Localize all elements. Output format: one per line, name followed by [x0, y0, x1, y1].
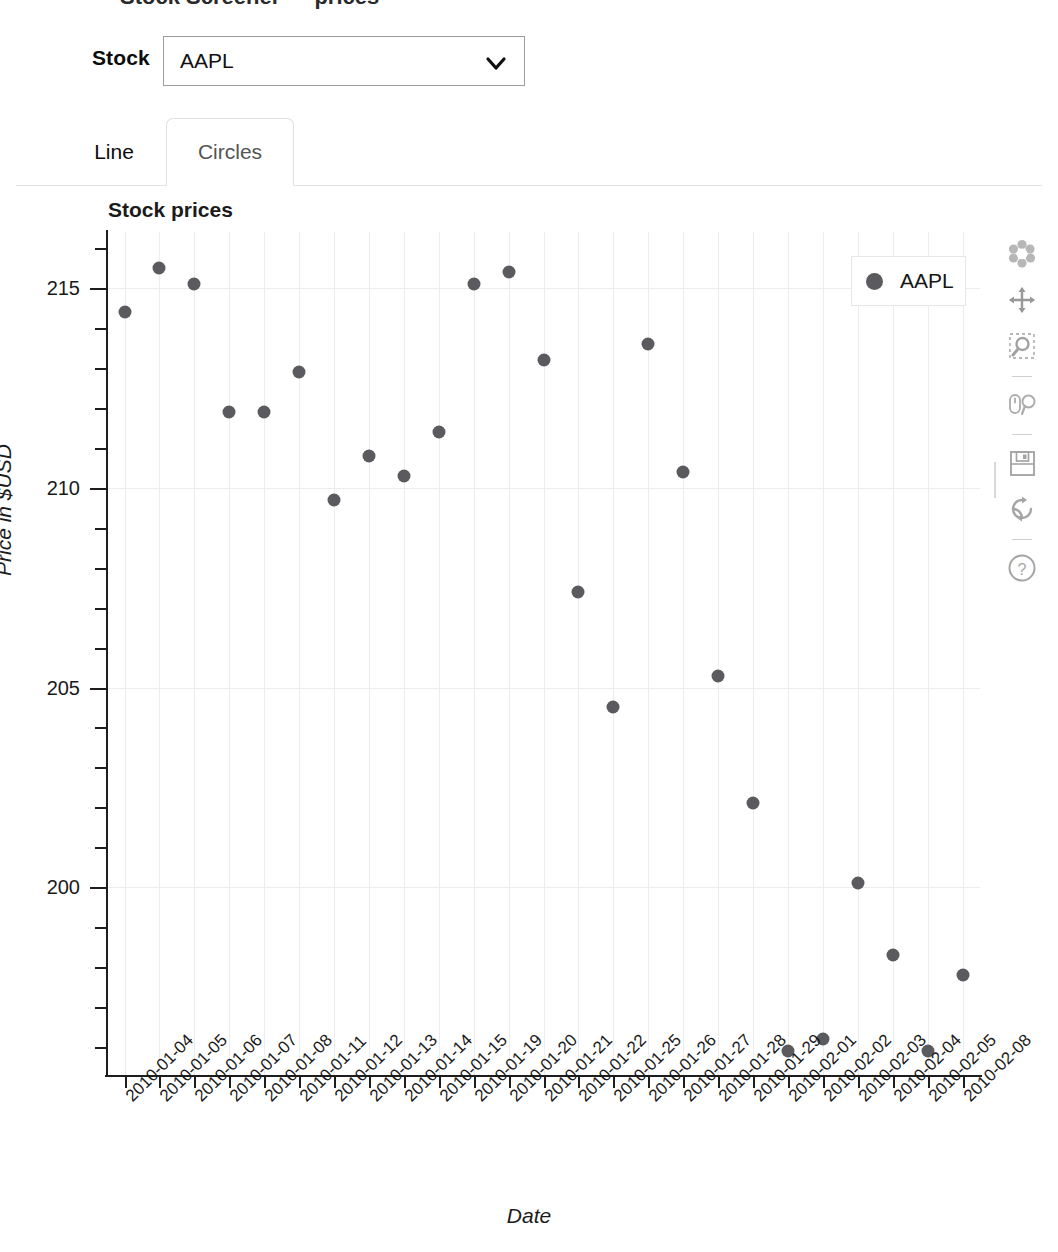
- y-tick-minor: [95, 767, 106, 769]
- grid-line-vertical: [823, 232, 824, 1075]
- grid-line-vertical: [718, 232, 719, 1075]
- data-point[interactable]: [886, 949, 899, 962]
- y-tick-minor: [95, 448, 106, 450]
- reset-tool-icon[interactable]: [1002, 489, 1042, 529]
- y-tick-minor: [95, 727, 106, 729]
- stock-select-value: AAPL: [180, 49, 234, 73]
- grid-line-vertical: [369, 232, 370, 1075]
- toolbar-separator: [1012, 434, 1032, 435]
- y-axis-line: [106, 230, 108, 1077]
- grid-line-vertical: [578, 232, 579, 1075]
- toolbar-separator: [1012, 376, 1032, 377]
- pan-tool-icon[interactable]: [1002, 280, 1042, 320]
- svg-text:?: ?: [1018, 561, 1027, 578]
- y-tick-minor: [95, 648, 106, 650]
- help-tool-icon[interactable]: ?: [1002, 548, 1042, 588]
- grid-line-vertical: [963, 232, 964, 1075]
- stock-select-label: Stock: [92, 46, 150, 70]
- data-point[interactable]: [397, 469, 410, 482]
- plot-toolbar: ?: [998, 234, 1046, 594]
- y-tick-label: 200: [20, 876, 80, 899]
- data-point[interactable]: [851, 877, 864, 890]
- data-point[interactable]: [572, 585, 585, 598]
- y-tick-minor: [95, 967, 106, 969]
- grid-line-vertical: [439, 232, 440, 1075]
- y-axis-title: Price in $USD: [0, 576, 124, 600]
- bokeh-logo-icon[interactable]: [1002, 234, 1042, 274]
- data-point[interactable]: [362, 449, 375, 462]
- y-tick-minor: [95, 927, 106, 929]
- data-point[interactable]: [328, 493, 341, 506]
- tab-line[interactable]: Line: [76, 118, 152, 186]
- data-point[interactable]: [712, 669, 725, 682]
- data-point[interactable]: [467, 277, 480, 290]
- stock-select[interactable]: AAPL: [163, 36, 525, 86]
- toolbar-divider: [994, 462, 996, 498]
- stock-select-row: Stock AAPL: [0, 30, 1058, 92]
- grid-line-vertical: [299, 232, 300, 1075]
- grid-line-vertical: [474, 232, 475, 1075]
- chevron-down-icon: [485, 52, 507, 74]
- data-point[interactable]: [607, 701, 620, 714]
- y-tick-minor: [95, 408, 106, 410]
- y-tick-minor: [95, 568, 106, 570]
- grid-line-horizontal: [107, 887, 980, 888]
- y-tick-major: [90, 488, 106, 490]
- data-point[interactable]: [747, 797, 760, 810]
- data-point[interactable]: [223, 405, 236, 418]
- clipped-page-header-text: Stock Screener — prices: [120, 0, 379, 10]
- grid-line-vertical: [264, 232, 265, 1075]
- data-point[interactable]: [432, 425, 445, 438]
- grid-line-vertical: [858, 232, 859, 1075]
- y-tick-minor: [95, 608, 106, 610]
- y-tick-minor: [95, 1047, 106, 1049]
- y-tick-minor: [95, 368, 106, 370]
- legend-entry-label: AAPL: [900, 269, 954, 293]
- grid-line-vertical: [928, 232, 929, 1075]
- chart-legend[interactable]: AAPL: [851, 256, 966, 306]
- toolbar-separator: [1012, 539, 1032, 540]
- y-tick-minor: [95, 847, 106, 849]
- grid-line-vertical: [404, 232, 405, 1075]
- y-tick-minor: [95, 1007, 106, 1009]
- grid-line-vertical: [229, 232, 230, 1075]
- data-point[interactable]: [537, 353, 550, 366]
- plot-frame[interactable]: [107, 232, 980, 1075]
- data-point[interactable]: [258, 405, 271, 418]
- data-point[interactable]: [502, 266, 515, 279]
- y-tick-major: [90, 288, 106, 290]
- wheel-zoom-tool-icon[interactable]: [1002, 385, 1042, 425]
- data-point[interactable]: [188, 277, 201, 290]
- tab-bar: Line Circles: [0, 118, 1058, 186]
- x-axis-title: Date: [0, 1204, 1058, 1228]
- y-tick-minor: [95, 248, 106, 250]
- data-point[interactable]: [118, 305, 131, 318]
- grid-line-horizontal: [107, 688, 980, 689]
- y-tick-label: 210: [20, 476, 80, 499]
- grid-line-vertical: [334, 232, 335, 1075]
- data-point[interactable]: [642, 337, 655, 350]
- y-tick-minor: [95, 807, 106, 809]
- grid-line-vertical: [194, 232, 195, 1075]
- data-point[interactable]: [293, 365, 306, 378]
- data-point[interactable]: [677, 465, 690, 478]
- grid-line-vertical: [125, 232, 126, 1075]
- grid-line-vertical: [648, 232, 649, 1075]
- grid-line-vertical: [509, 232, 510, 1075]
- box-zoom-tool-icon[interactable]: [1002, 326, 1042, 366]
- chart-title: Stock prices: [108, 198, 233, 222]
- y-tick-minor: [95, 528, 106, 530]
- grid-line-vertical: [753, 232, 754, 1075]
- grid-line-vertical: [613, 232, 614, 1075]
- clipped-page-header: Stock Screener — prices: [0, 0, 1058, 14]
- y-axis-title-text: Price in $USD: [0, 444, 16, 576]
- legend-marker-icon: [866, 273, 883, 290]
- grid-line-vertical: [683, 232, 684, 1075]
- grid-line-horizontal: [107, 488, 980, 489]
- tab-circles[interactable]: Circles: [166, 118, 294, 186]
- grid-line-horizontal: [107, 288, 980, 289]
- data-point[interactable]: [153, 262, 166, 275]
- data-point[interactable]: [956, 969, 969, 982]
- chart-panel: Stock prices 200205210215 Price in $USD …: [0, 186, 1058, 1252]
- save-tool-icon[interactable]: [1002, 443, 1042, 483]
